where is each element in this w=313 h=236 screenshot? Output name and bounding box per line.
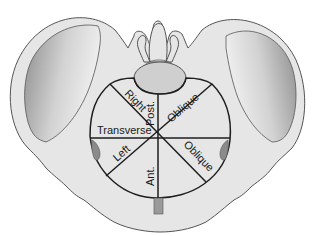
- label-ant: Ant.: [144, 166, 156, 186]
- sacral-spinous-process: [149, 24, 167, 63]
- label-post: Post.: [144, 101, 156, 126]
- label-transverse: Transverse: [97, 124, 152, 136]
- pelvis-diagram: Right Post. Oblique Transverse Left Ant.…: [0, 0, 313, 236]
- pubic-symphysis: [154, 198, 163, 214]
